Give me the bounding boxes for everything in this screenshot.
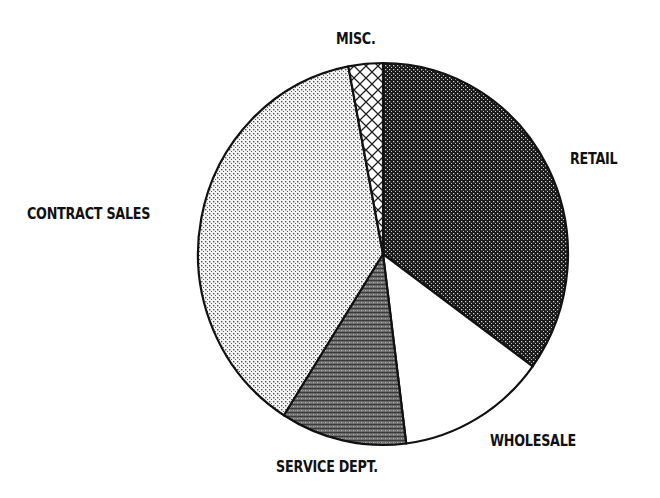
label-wholesale: WHOLESALE — [490, 432, 576, 450]
label-contract-sales: CONTRACT SALES — [27, 205, 150, 223]
label-service-dept: SERVICE DEPT. — [276, 458, 378, 476]
label-retail: RETAIL — [570, 150, 617, 168]
pie-slices — [198, 63, 568, 445]
label-misc: MISC. — [336, 30, 376, 48]
pie-chart — [0, 0, 660, 498]
